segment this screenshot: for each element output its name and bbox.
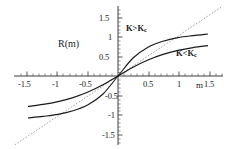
y-tick-label-pos-1-5: 1.5	[99, 13, 109, 23]
annotation-k-less-kc-main: K<K	[176, 48, 194, 58]
x-tick-label-neg-1: -1	[52, 79, 59, 89]
annotation-k-greater-kc-main: K>K	[126, 23, 144, 33]
annotation-k-greater-kc: K>Kc	[126, 23, 147, 33]
plot-canvas	[0, 0, 230, 149]
y-tick-label-pos-1: 1	[108, 32, 112, 42]
x-tick-label-pos-1-5: 1.5	[204, 79, 214, 89]
chart-figure: R(m) m -1.5 -1 -0.5 0.5 1 1.5 1.5 1 0.5 …	[0, 0, 230, 149]
y-tick-label-neg-1: -1	[108, 110, 115, 120]
x-tick-label-neg-1-5: -1.5	[18, 79, 31, 89]
y-tick-label-neg-0-5: -0.5	[105, 91, 118, 101]
x-axis-label: m	[196, 80, 203, 90]
annotation-k-less-kc-subscript: c	[194, 51, 197, 58]
y-tick-label-pos-0-5: 0.5	[99, 52, 109, 62]
annotation-k-greater-kc-subscript: c	[144, 26, 147, 33]
y-axis-label: R(m)	[58, 38, 79, 49]
x-tick-label-neg-0-5: -0.5	[79, 79, 92, 89]
annotation-k-less-kc: K<Kc	[176, 48, 197, 58]
y-axis-ticks	[118, 18, 123, 135]
x-tick-label-pos-0-5: 0.5	[143, 79, 153, 89]
y-tick-label-neg-1-5: -1.5	[102, 130, 115, 140]
x-tick-label-pos-1: 1	[177, 79, 181, 89]
